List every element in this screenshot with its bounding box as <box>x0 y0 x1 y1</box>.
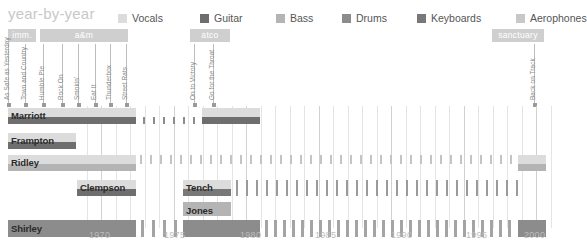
activity-segment <box>426 180 428 196</box>
activity-segment <box>350 155 352 164</box>
legend-item-label: Bass <box>290 12 313 24</box>
album-title-label: Town and Country <box>20 47 27 100</box>
legend-item-vocals[interactable]: Vocals <box>118 8 163 22</box>
activity-segment <box>270 155 272 164</box>
record-label-atco[interactable]: atco <box>190 29 230 42</box>
member-row[interactable]: Ridley <box>0 155 557 177</box>
member-name-label: Marriott <box>11 111 46 121</box>
album-markers: As Safe as YesterdayTown and CountryHumb… <box>0 44 557 106</box>
activity-segment <box>296 180 298 196</box>
record-label-imm[interactable]: imm. <box>8 29 36 42</box>
album-title-label: On to Victory <box>189 62 196 100</box>
chart-header: year-by-year VocalsGuitarBassDrumsKeyboa… <box>0 0 557 28</box>
activity-segment <box>450 155 452 164</box>
x-axis-tick-label: 2000 <box>524 230 545 240</box>
legend-swatch-icon <box>118 14 127 23</box>
legend-item-bass[interactable]: Bass <box>276 8 313 22</box>
album-marker[interactable]: Town and Country <box>25 44 26 106</box>
activity-segment <box>316 180 318 196</box>
member-row[interactable]: Marriott <box>0 108 557 130</box>
timeline-plot: MarriottFramptonRidleyClempsonTenchJones… <box>0 106 557 228</box>
x-axis-tick-label: 1975 <box>164 230 185 240</box>
album-marker[interactable]: Smokin' <box>78 44 79 106</box>
album-marker[interactable]: Eat It <box>95 44 96 106</box>
activity-segment <box>256 180 258 196</box>
activity-segment <box>446 180 448 196</box>
record-label-sanctuary[interactable]: sanctuary <box>492 29 544 42</box>
legend-swatch-icon <box>342 14 351 23</box>
activity-segment <box>366 180 368 196</box>
album-title-label: Back on Track <box>529 58 536 100</box>
activity-segment <box>280 155 282 164</box>
activity-segment <box>310 155 312 164</box>
activity-segment <box>490 155 492 164</box>
legend-item-guitar[interactable]: Guitar <box>200 8 243 22</box>
activity-segment <box>220 155 222 164</box>
page-title: year-by-year <box>8 5 95 22</box>
album-marker[interactable]: As Safe as Yesterday <box>8 44 9 106</box>
activity-segment <box>416 180 418 196</box>
activity-segment <box>276 180 278 196</box>
activity-segment <box>496 180 498 196</box>
activity-segment <box>330 155 332 164</box>
member-name-label: Shirley <box>11 224 42 234</box>
legend-item-label: Keyboards <box>431 12 481 24</box>
album-title-label: Thunderbox <box>105 65 112 100</box>
x-axis-tick-label: 1980 <box>240 230 261 240</box>
activity-segment <box>506 180 508 196</box>
activity-segment <box>346 180 348 196</box>
x-axis-tick-label: 1985 <box>315 230 336 240</box>
activity-segment <box>163 117 165 124</box>
activity-segment <box>326 180 328 196</box>
album-title-label: Go for the Throat <box>208 50 215 100</box>
album-marker[interactable]: Go for the Throat <box>213 44 214 106</box>
album-marker[interactable]: Rock On <box>62 44 63 106</box>
activity-segment <box>386 180 388 196</box>
activity-segment <box>140 155 142 164</box>
activity-segment <box>480 155 482 164</box>
legend-item-label: Vocals <box>132 12 163 24</box>
activity-segment <box>356 180 358 196</box>
activity-segment <box>380 155 382 164</box>
activity-segment <box>150 155 152 164</box>
member-name-label: Jones <box>186 206 213 216</box>
activity-segment <box>236 180 238 196</box>
activity-segment <box>143 117 145 124</box>
activity-segment <box>516 180 518 196</box>
activity-segment <box>470 155 472 164</box>
album-marker[interactable]: Street Rats <box>126 44 127 106</box>
album-marker[interactable]: Thunderbox <box>110 44 111 106</box>
album-title-label: Rock On <box>57 74 64 100</box>
activity-segment <box>476 180 478 196</box>
legend-item-aerophones[interactable]: Aerophones <box>516 8 587 22</box>
x-axis: 1970197519801985199019952000 <box>0 228 557 250</box>
activity-segment <box>190 155 192 164</box>
activity-segment <box>336 180 338 196</box>
album-marker[interactable]: On to Victory <box>194 44 195 106</box>
activity-segment <box>510 155 512 164</box>
activity-segment <box>320 155 322 164</box>
legend-item-keyboards[interactable]: Keyboards <box>417 8 481 22</box>
activity-segment <box>250 155 252 164</box>
legend-item-drums[interactable]: Drums <box>342 8 387 22</box>
activity-segment <box>436 180 438 196</box>
member-name-label: Frampton <box>11 136 54 146</box>
activity-segment <box>230 155 232 164</box>
album-marker[interactable]: Humble Pie <box>43 44 44 106</box>
activity-segment <box>300 155 302 164</box>
activity-segment <box>202 117 260 124</box>
activity-segment <box>306 180 308 196</box>
record-label-am[interactable]: a&m <box>40 29 128 42</box>
x-axis-tick-label: 1995 <box>466 230 487 240</box>
member-row[interactable]: Frampton <box>0 133 557 153</box>
activity-segment <box>466 180 468 196</box>
x-axis-tick-label: 1990 <box>391 230 412 240</box>
member-name-label: Clempson <box>80 183 125 193</box>
album-marker[interactable]: Back on Track <box>534 44 535 106</box>
album-title-label: Humble Pie <box>38 66 45 100</box>
activity-segment <box>240 155 242 164</box>
activity-segment <box>180 155 182 164</box>
member-row[interactable]: Jones <box>0 202 557 218</box>
activity-segment <box>390 155 392 164</box>
